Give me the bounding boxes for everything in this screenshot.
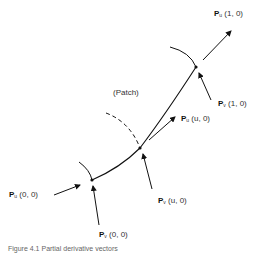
label-patch: (Patch) bbox=[113, 88, 139, 97]
arrow-pv-10 bbox=[199, 73, 211, 100]
cross-curve-0 bbox=[79, 162, 92, 180]
figure-caption: Figure 4.1 Partial derivative vectors bbox=[8, 245, 118, 252]
label-pv-u0: Pv (u, 0) bbox=[158, 196, 187, 205]
arrow-pv-u0 bbox=[143, 154, 152, 189]
label-pv-00: Pv (0, 0) bbox=[99, 230, 128, 239]
boundary-curve bbox=[92, 67, 196, 180]
cross-curve-u-dashed bbox=[106, 113, 140, 148]
label-pu-00: Pu (0, 0) bbox=[9, 190, 38, 199]
label-pu-u0: Pu (u, 0) bbox=[181, 114, 210, 123]
patch-diagram bbox=[0, 0, 259, 253]
arrow-pu-u0 bbox=[149, 117, 175, 140]
arrow-pu-10 bbox=[203, 31, 231, 60]
cross-curve-1 bbox=[170, 47, 196, 67]
label-pv-10: Pv (1, 0) bbox=[218, 99, 247, 108]
label-pu-10: Pu (1, 0) bbox=[214, 9, 243, 18]
arrow-pv-00 bbox=[93, 186, 99, 225]
arrow-pu-00 bbox=[54, 185, 80, 195]
